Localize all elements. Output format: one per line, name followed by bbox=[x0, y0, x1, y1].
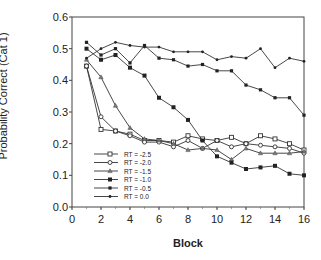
data-point-marker bbox=[85, 47, 89, 51]
data-point-marker bbox=[85, 41, 88, 44]
data-point-marker bbox=[288, 146, 292, 150]
data-point-marker bbox=[302, 173, 306, 177]
data-point-marker bbox=[288, 96, 291, 99]
data-point-marker bbox=[172, 50, 175, 53]
data-point-marker bbox=[259, 134, 263, 138]
data-point-marker bbox=[158, 46, 161, 49]
data-point-marker bbox=[244, 146, 248, 150]
legend-label: RT = -1.5 bbox=[124, 168, 151, 175]
series-line bbox=[87, 42, 305, 67]
legend-marker bbox=[108, 161, 112, 165]
data-point-marker bbox=[99, 115, 103, 119]
data-point-marker bbox=[245, 57, 248, 60]
data-point-marker bbox=[215, 69, 218, 72]
x-tick-label: 16 bbox=[298, 213, 310, 225]
series-line bbox=[87, 42, 305, 115]
legend-label: RT = -2.5 bbox=[124, 151, 151, 158]
legend-label: RT = -1.0 bbox=[124, 176, 151, 183]
legend-marker bbox=[109, 195, 112, 198]
legend-label: RT = -2.0 bbox=[124, 159, 151, 166]
data-point-marker bbox=[143, 46, 146, 49]
data-point-marker bbox=[273, 137, 277, 141]
data-point-marker bbox=[157, 57, 160, 60]
data-point-marker bbox=[244, 167, 248, 171]
data-point-marker bbox=[230, 145, 234, 149]
y-tick-label: 0.2 bbox=[53, 138, 68, 150]
data-point-marker bbox=[215, 154, 219, 158]
data-point-marker bbox=[244, 83, 247, 86]
data-point-marker bbox=[288, 172, 292, 176]
data-point-marker bbox=[172, 105, 176, 109]
data-point-marker bbox=[99, 53, 102, 56]
data-point-marker bbox=[274, 66, 277, 69]
legend-label: RT = 0.0 bbox=[124, 193, 149, 200]
legend-marker bbox=[108, 186, 111, 189]
x-tick-label: 14 bbox=[269, 213, 281, 225]
y-tick-label: 0.4 bbox=[53, 74, 68, 86]
data-point-marker bbox=[114, 129, 118, 133]
plot-frame bbox=[72, 17, 304, 207]
x-tick-label: 10 bbox=[211, 213, 223, 225]
data-point-marker bbox=[186, 134, 190, 138]
data-point-marker bbox=[273, 164, 277, 168]
data-point-marker bbox=[201, 50, 204, 53]
data-point-marker bbox=[128, 134, 132, 138]
data-point-marker bbox=[215, 139, 219, 143]
data-point-marker bbox=[186, 118, 190, 122]
data-point-marker bbox=[187, 50, 190, 53]
data-point-marker bbox=[85, 57, 88, 60]
data-point-marker bbox=[186, 64, 189, 67]
data-point-marker bbox=[230, 135, 234, 139]
line-chart: 0.00.10.20.30.40.50.60246810121416RT = -… bbox=[0, 0, 321, 260]
x-tick-label: 2 bbox=[98, 213, 104, 225]
legend-marker bbox=[108, 178, 112, 182]
data-point-marker bbox=[100, 47, 103, 50]
data-point-marker bbox=[303, 60, 306, 63]
legend-marker bbox=[108, 152, 112, 156]
data-point-marker bbox=[288, 142, 292, 146]
y-tick-label: 0.0 bbox=[53, 201, 68, 213]
data-point-marker bbox=[288, 57, 291, 60]
data-point-marker bbox=[259, 165, 263, 169]
y-tick-label: 0.3 bbox=[53, 106, 68, 118]
data-point-marker bbox=[172, 58, 175, 61]
data-point-marker bbox=[201, 139, 205, 143]
data-point-marker bbox=[302, 114, 305, 117]
data-point-marker bbox=[128, 66, 132, 70]
x-tick-label: 12 bbox=[240, 213, 252, 225]
data-point-marker bbox=[273, 96, 276, 99]
data-point-marker bbox=[99, 58, 103, 62]
data-point-marker bbox=[216, 58, 219, 61]
data-point-marker bbox=[230, 55, 233, 58]
data-point-marker bbox=[244, 142, 248, 146]
data-point-marker bbox=[113, 103, 117, 107]
data-point-marker bbox=[128, 61, 131, 64]
x-tick-label: 8 bbox=[185, 213, 191, 225]
data-point-marker bbox=[273, 145, 277, 149]
x-tick-label: 0 bbox=[69, 213, 75, 225]
data-point-marker bbox=[259, 88, 262, 91]
data-point-marker bbox=[157, 96, 161, 100]
x-axis-label: Block bbox=[173, 237, 203, 249]
data-point-marker bbox=[230, 69, 233, 72]
y-tick-label: 0.6 bbox=[53, 11, 68, 23]
data-point-marker bbox=[114, 41, 117, 44]
data-point-marker bbox=[143, 74, 147, 78]
data-point-marker bbox=[259, 143, 263, 147]
legend-label: RT = -0.5 bbox=[124, 185, 151, 192]
data-point-marker bbox=[186, 139, 190, 143]
data-point-marker bbox=[114, 53, 118, 57]
y-tick-label: 0.5 bbox=[53, 43, 68, 55]
data-point-marker bbox=[259, 47, 262, 50]
data-point-marker bbox=[114, 47, 117, 50]
series-line bbox=[87, 66, 305, 150]
data-point-marker bbox=[230, 161, 234, 165]
data-point-marker bbox=[129, 44, 132, 47]
data-point-marker bbox=[201, 63, 204, 66]
data-point-marker bbox=[99, 127, 103, 131]
y-tick-label: 0.1 bbox=[53, 169, 68, 181]
series-line bbox=[87, 66, 305, 153]
x-tick-label: 6 bbox=[156, 213, 162, 225]
data-point-marker bbox=[85, 64, 89, 68]
x-tick-label: 4 bbox=[127, 213, 133, 225]
